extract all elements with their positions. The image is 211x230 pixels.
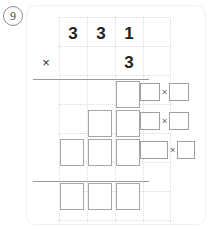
answer-box-total-c3[interactable] [116,183,140,210]
side-equation-2-operator: × [162,117,167,126]
side-equation-3-left-box[interactable] [140,141,168,159]
answer-box-total-c2[interactable] [88,183,112,210]
side-equation-2-right-box[interactable] [169,112,189,130]
answer-box-total-c1[interactable] [60,183,84,210]
multiplication-rule [33,79,149,80]
side-equation-3-operator: × [170,146,175,155]
side-equation-1: × [140,83,189,101]
side-equation-3-right-box[interactable] [177,141,195,159]
multiplicand-digit-hundreds: 3 [60,20,86,48]
side-equation-2-left-box[interactable] [140,112,160,130]
side-equation-2: × [140,112,189,130]
answer-box-r3-c1[interactable] [60,139,84,166]
answer-box-r3-c3[interactable] [116,139,140,166]
answer-box-r1-c3[interactable] [116,81,140,108]
side-equation-1-operator: × [162,88,167,97]
side-equation-1-left-box[interactable] [140,83,160,101]
grid-hline-0 [59,17,171,18]
side-equation-3: × [140,141,195,159]
multiplication-operator: × [33,49,59,77]
grid-hline-7 [59,220,171,221]
problem-number-badge: 9 [3,6,23,26]
multiplier-digit-ones: 3 [116,49,142,77]
total-rule [33,181,149,182]
grid-hline-2 [59,75,171,76]
answer-box-r2-c3[interactable] [116,110,140,137]
grid-hline-3 [59,104,171,105]
multiplicand-digit-ones: 1 [116,20,142,48]
answer-box-r3-c2[interactable] [88,139,112,166]
answer-box-r2-c2[interactable] [88,110,112,137]
side-equation-1-right-box[interactable] [169,83,189,101]
multiplicand-digit-tens: 3 [88,20,114,48]
grid-hline-4 [59,133,171,134]
